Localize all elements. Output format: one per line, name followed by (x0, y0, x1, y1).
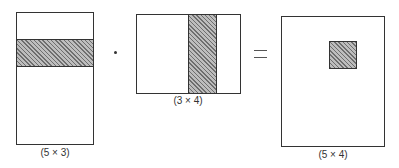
matrix-c-element-highlight (329, 41, 357, 69)
matrix-b-dims-label: (3 × 4) (158, 95, 218, 106)
dot-operator-icon (114, 51, 117, 54)
matrix-a-dims-label: (5 × 3) (25, 147, 85, 158)
matrix-b-column-highlight (188, 14, 217, 94)
matrix-c-dims-label: (5 × 4) (303, 149, 363, 160)
matrix-a-row-highlight (16, 39, 94, 67)
matrix-a (16, 12, 94, 145)
matrix-c (281, 16, 385, 147)
matrix-b (136, 14, 241, 94)
